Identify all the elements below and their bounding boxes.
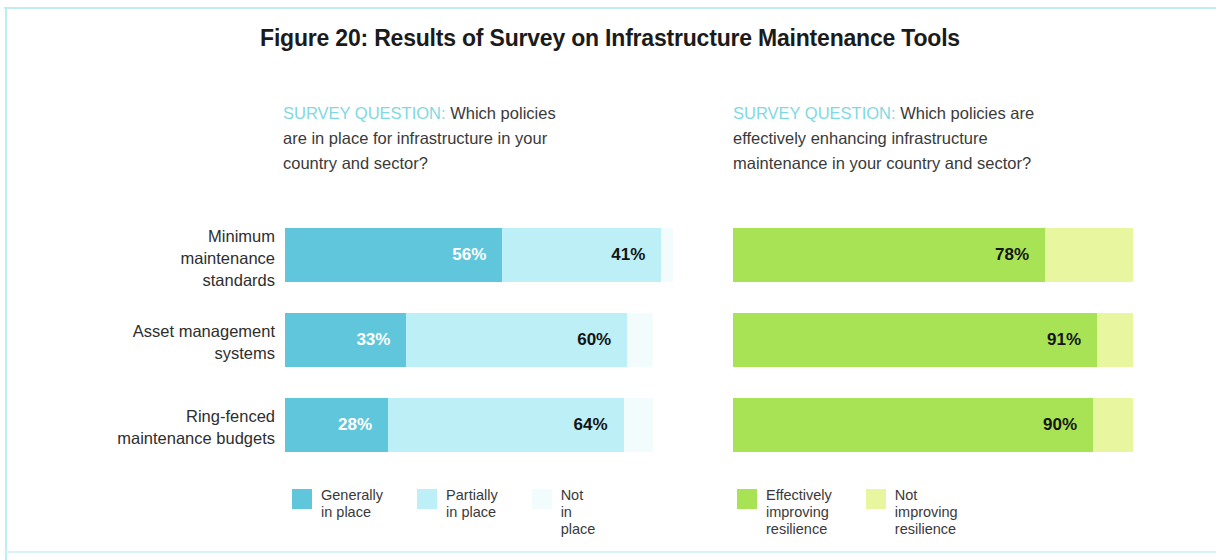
legend-item-left-2: Not in place: [532, 487, 596, 538]
bar-value-left-2-0: 28%: [338, 415, 388, 435]
bar-row-right-2: 90%: [733, 398, 1133, 452]
survey-question-left: SURVEY QUESTION: Which policies are in p…: [283, 101, 583, 176]
bar-segment-right-0-0: 78%: [733, 228, 1045, 282]
bar-row-left-0: 56%41%: [285, 228, 673, 282]
bar-value-left-0-1: 41%: [611, 245, 661, 265]
legend-swatch-icon-left-1: [417, 489, 437, 509]
legend-left: Generally in placePartially in placeNot …: [292, 487, 595, 538]
legend-label-right-0: Effectively improving resilience: [766, 487, 832, 538]
legend-item-left-0: Generally in place: [292, 487, 383, 521]
bar-value-left-2-1: 64%: [574, 415, 624, 435]
bar-row-right-1: 91%: [733, 313, 1133, 367]
bar-value-right-2-0: 90%: [1043, 415, 1093, 435]
bar-segment-left-1-1: 60%: [406, 313, 627, 367]
bar-segment-right-0-1: [1045, 228, 1133, 282]
bar-segment-left-0-1: 41%: [502, 228, 661, 282]
survey-question-right: SURVEY QUESTION: Which policies are effe…: [733, 101, 1063, 176]
bar-value-right-0-0: 78%: [995, 245, 1045, 265]
bar-value-left-1-0: 33%: [356, 330, 406, 350]
bar-segment-left-1-2: [627, 313, 653, 367]
legend-swatch-icon-right-0: [737, 489, 757, 509]
survey-question-left-label: SURVEY QUESTION:: [283, 104, 446, 122]
bar-segment-left-0-2: [661, 228, 673, 282]
legend-item-right-0: Effectively improving resilience: [737, 487, 832, 538]
legend-label-left-2: Not in place: [561, 487, 596, 538]
bar-segment-right-2-1: [1093, 398, 1133, 452]
bar-segment-right-2-0: 90%: [733, 398, 1093, 452]
bar-segment-right-1-0: 91%: [733, 313, 1097, 367]
legend-item-left-1: Partially in place: [417, 487, 498, 521]
row-label-ring-fenced-maintenance-budgets: Ring-fenced maintenance budgets: [30, 405, 275, 449]
row-label-asset-management-systems: Asset management systems: [30, 320, 275, 364]
survey-question-right-label: SURVEY QUESTION:: [733, 104, 896, 122]
bar-segment-left-2-0: 28%: [285, 398, 388, 452]
bar-value-left-1-1: 60%: [577, 330, 627, 350]
row-label-minimum-maintenance-standards: Minimum maintenance standards: [30, 225, 275, 291]
figure-title: Figure 20: Results of Survey on Infrastr…: [0, 25, 1220, 52]
legend-label-right-1: Not improving resilience: [895, 487, 958, 538]
bar-row-left-1: 33%60%: [285, 313, 653, 367]
legend-swatch-icon-left-0: [292, 489, 312, 509]
bar-row-right-0: 78%: [733, 228, 1133, 282]
legend-right: Effectively improving resilienceNot impr…: [737, 487, 958, 538]
bar-segment-left-1-0: 33%: [285, 313, 406, 367]
bar-segment-left-0-0: 56%: [285, 228, 502, 282]
legend-item-right-1: Not improving resilience: [866, 487, 958, 538]
bar-segment-right-1-1: [1097, 313, 1133, 367]
bar-value-right-1-0: 91%: [1047, 330, 1097, 350]
bar-segment-left-2-1: 64%: [388, 398, 624, 452]
bar-segment-left-2-2: [624, 398, 653, 452]
bar-row-left-2: 28%64%: [285, 398, 653, 452]
figure-container: Figure 20: Results of Survey on Infrastr…: [0, 0, 1220, 560]
legend-swatch-icon-left-2: [532, 489, 552, 509]
legend-swatch-icon-right-1: [866, 489, 886, 509]
legend-label-left-1: Partially in place: [446, 487, 498, 521]
legend-label-left-0: Generally in place: [321, 487, 383, 521]
bar-value-left-0-0: 56%: [452, 245, 502, 265]
